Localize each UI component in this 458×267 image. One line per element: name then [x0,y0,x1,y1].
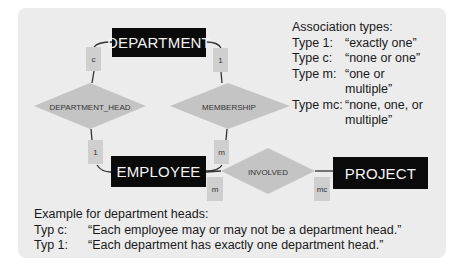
cardinality-employee-membership-m: m [214,140,229,164]
entity-department: DEPARTMENT [112,28,206,57]
legend-title: Association types: [292,20,437,36]
cardinality-employee-involved-m: m [207,177,223,201]
legend-key: Type 1: [292,36,345,52]
legend-item: Type m: “one or multiple” [292,67,437,98]
association-types-legend: Association types: Type 1: “exactly one”… [292,20,437,129]
legend-item: Type 1: “exactly one” [292,36,437,52]
legend-key: Type c: [292,51,345,67]
cardinality-project-involved-mc: mc [314,177,330,201]
example-item: Typ 1: “Each department has exactly one … [34,238,401,254]
legend-key: Type m: [292,67,345,98]
relationship-membership-label: MEMBERSHIP [202,103,256,112]
entity-employee: EMPLOYEE [111,156,206,187]
legend-value: “none or one” [345,51,435,67]
department-head-example: Example for department heads: Typ c: “Ea… [34,207,401,254]
legend-value: “exactly one” [345,36,435,52]
cardinality-membership-1: 1 [213,48,228,72]
legend-item: Type mc: “none, one, or multiple” [292,98,437,129]
relationship-involved-label: INVOLVED [248,168,288,177]
cardinality-department-head-c: c [86,47,101,71]
example-key: Typ 1: [34,238,88,254]
example-item: Typ c: “Each employee may or may not be … [34,223,401,239]
example-value: “Each department has exactly one departm… [88,238,383,254]
legend-value: “one or multiple” [345,67,407,98]
entity-project: PROJECT [333,157,428,189]
example-key: Typ c: [34,223,88,239]
legend-value: “none, one, or multiple” [345,98,437,129]
relationship-department-head-label: DEPARTMENT_HEAD [49,103,130,112]
example-value: “Each employee may or may not be a depar… [88,223,401,239]
legend-key: Type mc: [292,98,345,129]
legend-item: Type c: “none or one” [292,51,437,67]
example-title: Example for department heads: [34,207,401,223]
cardinality-employee-head-1: 1 [88,140,103,164]
